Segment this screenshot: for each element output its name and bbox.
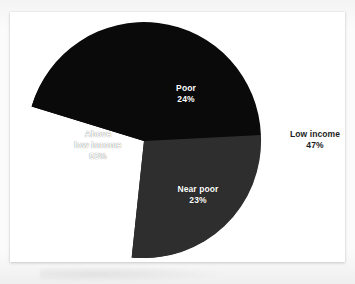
pie-slice-poor[interactable]: [32, 22, 261, 141]
pie-label-low-income: Low income 47%: [278, 129, 352, 151]
pie-label-above-low-income: Above low income 53%: [59, 129, 137, 162]
pie-label-near-poor: Near poor 23%: [165, 184, 231, 206]
pie-chart: Poor 24% Above low income 53% Near poor …: [10, 12, 345, 262]
pie-label-low-income-name: Low income: [290, 129, 340, 139]
pie-label-above-low-income-line1: Above: [85, 129, 111, 139]
pie-label-near-poor-percent: 23%: [165, 195, 231, 206]
pie-label-poor-percent: 24%: [158, 94, 214, 105]
pie-label-low-income-percent: 47%: [278, 140, 352, 151]
pie-label-near-poor-name: Near poor: [177, 184, 218, 194]
page: Poor 24% Above low income 53% Near poor …: [0, 0, 355, 284]
scan-artifact: [40, 266, 230, 282]
pie-label-poor: Poor 24%: [158, 83, 214, 105]
pie-label-poor-name: Poor: [176, 83, 196, 93]
pie-label-above-low-income-percent: 53%: [59, 151, 137, 162]
figure-card: Poor 24% Above low income 53% Near poor …: [10, 12, 345, 262]
pie-label-above-low-income-line2: low income: [59, 140, 137, 151]
